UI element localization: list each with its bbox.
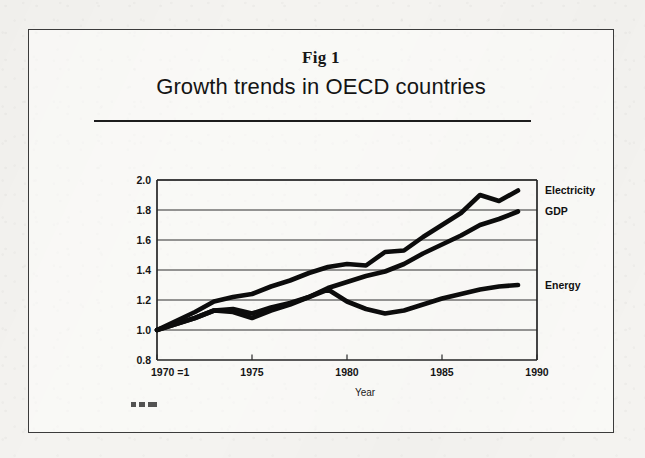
figure-frame: Fig 1 Growth trends in OECD countries 0.… bbox=[28, 29, 614, 433]
y-axis-tick-label: 1.8 bbox=[136, 204, 151, 216]
y-axis-tick-label: 2.0 bbox=[136, 174, 151, 186]
x-axis-tick-label: 1985 bbox=[430, 366, 454, 378]
title-underline-rule bbox=[94, 120, 531, 122]
series-labels-group: ElectricityGDPEnergy bbox=[545, 184, 595, 290]
x-axis-tick-labels: 1970 =11975198019851990 bbox=[151, 366, 549, 378]
y-axis-tick-label: 1.6 bbox=[136, 234, 151, 246]
y-axis-tick-label: 1.2 bbox=[136, 294, 151, 306]
y-axis-tick-labels: 0.81.01.21.41.61.82.0 bbox=[136, 174, 151, 366]
y-axis-tick-label: 0.8 bbox=[136, 354, 151, 366]
figure-title: Growth trends in OECD countries bbox=[29, 74, 613, 100]
y-axis-tick-label: 1.0 bbox=[136, 324, 151, 336]
chart-svg: 0.81.01.21.41.61.82.0 1970 =119751980198… bbox=[96, 142, 596, 422]
x-axis-tick-label: 1970 =1 bbox=[151, 366, 189, 378]
series-label-energy: Energy bbox=[545, 279, 581, 291]
series-line-electricity bbox=[157, 191, 518, 331]
series-label-electricity: Electricity bbox=[545, 184, 595, 196]
y-axis-tick-label: 1.4 bbox=[136, 264, 151, 276]
data-series-group bbox=[157, 191, 518, 331]
scan-artifact-mark bbox=[131, 402, 157, 407]
x-axis-tick-label: 1975 bbox=[240, 366, 264, 378]
x-axis-title: Year bbox=[355, 387, 376, 398]
figure-number-caption: Fig 1 bbox=[29, 48, 613, 68]
x-axis-tick-label: 1990 bbox=[525, 366, 549, 378]
x-axis-tick-label: 1980 bbox=[335, 366, 359, 378]
gridlines-group bbox=[157, 180, 537, 330]
line-chart: 0.81.01.21.41.61.82.0 1970 =119751980198… bbox=[96, 142, 596, 422]
series-label-gdp: GDP bbox=[545, 205, 568, 217]
series-line-energy bbox=[157, 285, 518, 330]
